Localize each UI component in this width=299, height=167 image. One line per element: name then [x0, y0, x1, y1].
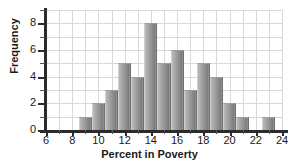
y-axis-tick	[38, 77, 45, 79]
x-axis-tick-label: 12	[113, 134, 137, 146]
y-axis-tick-label: 8	[20, 16, 36, 28]
x-axis-title: Percent in Poverty	[0, 148, 299, 160]
x-axis-tick-minor	[59, 130, 60, 134]
x-axis-tick-label: 8	[60, 134, 84, 146]
histogram-bar	[210, 77, 223, 130]
y-axis-tick	[38, 50, 45, 52]
gridline-vertical	[256, 10, 257, 130]
y-axis-tick	[38, 23, 45, 25]
gridline-horizontal	[46, 50, 282, 51]
x-axis-tick-label: 16	[165, 134, 189, 146]
x-axis-tick-minor	[243, 130, 244, 134]
histogram-bar	[236, 117, 249, 130]
x-axis-tick-minor	[112, 130, 113, 134]
histogram-bar	[157, 63, 170, 130]
gridline-horizontal	[46, 37, 282, 38]
y-axis-tick-minor	[40, 10, 45, 11]
y-axis-tick-label: 2	[20, 96, 36, 108]
y-axis-tick-label: 6	[20, 43, 36, 55]
y-axis-tick	[38, 103, 45, 105]
gridline-vertical	[243, 10, 244, 130]
x-axis-tick-label: 10	[86, 134, 110, 146]
x-axis-tick-minor	[216, 130, 217, 134]
y-axis-tick-minor	[40, 90, 45, 91]
y-axis-line	[44, 8, 47, 133]
gridline-vertical	[85, 10, 86, 130]
y-axis-title: Frequency	[8, 8, 20, 84]
y-axis-tick-label: 4	[20, 70, 36, 82]
histogram-bar	[105, 90, 118, 130]
x-axis-tick-minor	[138, 130, 139, 134]
y-axis-tick-minor	[40, 117, 45, 118]
x-axis-tick-label: 24	[270, 134, 294, 146]
histogram-bar	[92, 103, 105, 130]
x-axis-tick-minor	[269, 130, 270, 134]
histogram-bar	[223, 103, 236, 130]
gridline-vertical	[59, 10, 60, 130]
histogram-bar	[144, 23, 157, 130]
histogram-bar	[79, 117, 92, 130]
x-axis-tick-label: 20	[218, 134, 242, 146]
plot-area	[46, 10, 282, 130]
histogram-chart: Frequency 68101214161820222402468 Percen…	[0, 0, 299, 167]
gridline-vertical	[269, 10, 270, 130]
gridline-horizontal	[46, 23, 282, 24]
histogram-bar	[171, 50, 184, 130]
x-axis-tick-minor	[85, 130, 86, 134]
y-axis-tick-label: 0	[20, 123, 36, 135]
histogram-bar	[131, 77, 144, 130]
y-axis-tick-minor	[40, 37, 45, 38]
y-axis-tick-minor	[40, 63, 45, 64]
x-axis-tick-minor	[190, 130, 191, 134]
x-axis-tick-label: 18	[191, 134, 215, 146]
histogram-bar	[118, 63, 131, 130]
histogram-bar	[184, 90, 197, 130]
histogram-bar	[262, 117, 275, 130]
gridline-horizontal	[46, 10, 282, 11]
x-axis-tick-label: 6	[34, 134, 58, 146]
x-axis-tick-minor	[164, 130, 165, 134]
histogram-bar	[197, 63, 210, 130]
x-axis-tick-label: 14	[139, 134, 163, 146]
gridline-vertical	[72, 10, 73, 130]
gridline-vertical	[282, 10, 283, 130]
y-axis-tick	[38, 130, 45, 132]
x-axis-tick-label: 22	[244, 134, 268, 146]
